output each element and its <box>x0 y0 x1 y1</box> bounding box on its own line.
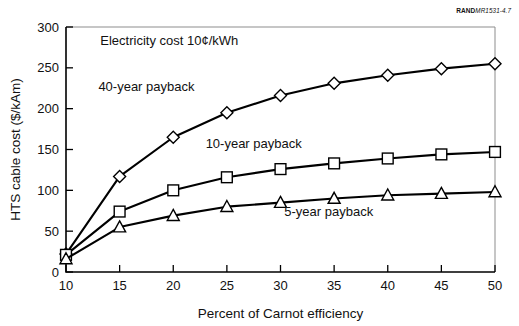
data-marker-diamond <box>328 77 340 89</box>
chart-annotation: Electricity cost 10¢/kWh <box>100 33 238 48</box>
data-marker-diamond <box>382 69 394 81</box>
data-marker-diamond <box>275 90 287 102</box>
y-tick-label: 150 <box>37 142 59 157</box>
figure-container: RANDMR1531-4.7 050100150200250300 101520… <box>0 0 519 326</box>
rand-document-credit: RANDMR1531-4.7 <box>456 7 511 14</box>
x-tick-label: 20 <box>166 278 180 293</box>
data-marker-square <box>329 158 340 169</box>
x-tick-label: 50 <box>488 278 502 293</box>
data-marker-square <box>168 185 179 196</box>
credit-prefix: RAND <box>456 7 475 14</box>
data-marker-square <box>436 149 447 160</box>
y-tick-label: 250 <box>37 60 59 75</box>
data-marker-square <box>490 147 501 158</box>
y-tick-label: 200 <box>37 101 59 116</box>
x-tick-label: 40 <box>381 278 395 293</box>
hts-cable-cost-chart: 050100150200250300 101520253035404550 40… <box>0 0 519 326</box>
x-tick-label: 15 <box>112 278 126 293</box>
y-tick-label: 100 <box>37 183 59 198</box>
x-tick-label: 35 <box>327 278 341 293</box>
series-label: 5-year payback <box>284 204 373 219</box>
x-axis-ticks: 101520253035404550 <box>59 265 502 293</box>
series-label: 40-year payback <box>98 79 195 94</box>
series-40-year-payback: 40-year payback <box>60 58 501 260</box>
y-axis-title: HTS cable cost ($/kAm) <box>8 78 23 221</box>
series-label: 10-year payback <box>206 136 303 151</box>
y-tick-label: 300 <box>37 20 59 35</box>
data-marker-square <box>114 206 125 217</box>
y-axis-ticks: 050100150200250300 <box>37 20 73 280</box>
credit-id: MR1531-4.7 <box>475 7 511 14</box>
x-axis-title: Percent of Carnot efficiency <box>198 306 364 321</box>
series-5-year-payback: 5-year payback <box>60 186 501 264</box>
data-marker-diamond <box>489 58 501 70</box>
x-tick-label: 25 <box>220 278 234 293</box>
x-tick-label: 30 <box>273 278 287 293</box>
data-marker-square <box>382 153 393 164</box>
data-marker-diamond <box>435 63 447 75</box>
y-tick-label: 50 <box>45 224 59 239</box>
data-marker-square <box>275 164 286 175</box>
data-series-layer: 40-year payback10-year payback5-year pay… <box>60 58 501 264</box>
x-tick-label: 45 <box>434 278 448 293</box>
data-marker-diamond <box>221 107 233 119</box>
annotation-layer: Electricity cost 10¢/kWh <box>100 33 238 48</box>
x-tick-label: 10 <box>59 278 73 293</box>
data-marker-square <box>221 172 232 183</box>
